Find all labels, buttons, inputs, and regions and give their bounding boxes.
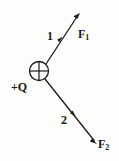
- vector-1-force-subscript: 1: [85, 33, 89, 42]
- vector-2-number-label: 2: [61, 114, 67, 126]
- vector-1-force-label: F1: [78, 28, 89, 40]
- vector-1-number-label: 1: [47, 30, 53, 42]
- vector-2-force-subscript: 2: [105, 143, 109, 152]
- circled-plus-icon: [30, 62, 49, 81]
- vector-2-arrow: [45, 79, 97, 144]
- charge-label: +Q: [11, 81, 27, 93]
- vector-2-force-label: F2: [98, 138, 109, 150]
- force-diagram-figure: +Q 1 F1 2 F2: [0, 0, 119, 161]
